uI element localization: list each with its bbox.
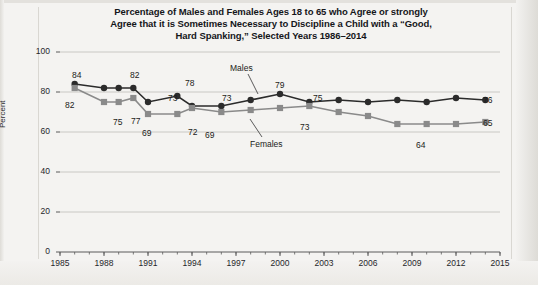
x-axis-tick-label: 2015 [483, 258, 517, 268]
marker-males [218, 103, 224, 109]
y-axis-tick-label: 0 [26, 246, 50, 256]
x-axis-tick-label: 2003 [307, 258, 341, 268]
data-point-label: 82 [130, 70, 139, 80]
marker-females [306, 103, 312, 109]
marker-males [247, 97, 253, 103]
data-point-label: 72 [188, 127, 197, 137]
x-axis-tick-label: 2000 [263, 258, 297, 268]
series-label-females: Females [250, 139, 283, 149]
data-point-label: 64 [416, 140, 425, 150]
y-axis-tick-label: 20 [26, 206, 50, 216]
x-axis-tick-label: 1985 [43, 258, 77, 268]
x-axis-tick-label: 2009 [395, 258, 429, 268]
marker-males [277, 91, 283, 97]
data-point-label: 75 [113, 117, 122, 127]
y-axis-tick-label: 40 [26, 166, 50, 176]
marker-females [248, 107, 254, 113]
x-axis-tick-label: 1997 [219, 258, 253, 268]
marker-females [453, 121, 459, 127]
marker-males [335, 97, 341, 103]
data-point-label: 69 [205, 130, 214, 140]
data-point-label: 73 [222, 93, 231, 103]
y-axis-tick-label: 100 [26, 46, 50, 56]
marker-females [218, 109, 224, 115]
marker-females [174, 111, 180, 117]
marker-females [277, 105, 283, 111]
series-label-males: Males [230, 63, 253, 73]
data-point-label: 82 [65, 100, 74, 110]
marker-females [130, 95, 136, 101]
marker-females [72, 85, 78, 91]
marker-females [145, 111, 151, 117]
x-axis-tick-label: 1988 [87, 258, 121, 268]
marker-males [115, 85, 121, 91]
data-point-label: 76 [483, 95, 492, 105]
marker-females [394, 121, 400, 127]
marker-males [423, 99, 429, 105]
y-axis-label: Percent [0, 100, 7, 128]
marker-females [189, 105, 195, 111]
marker-males [453, 95, 459, 101]
data-point-label: 65 [483, 118, 492, 128]
marker-females [424, 121, 430, 127]
marker-males [130, 85, 136, 91]
y-axis-tick-label: 80 [26, 86, 50, 96]
leader-line-males [248, 74, 258, 94]
x-axis-tick-label: 1994 [175, 258, 209, 268]
data-point-label: 78 [185, 78, 194, 88]
marker-males [101, 85, 107, 91]
marker-females [336, 109, 342, 115]
data-point-label: 75 [313, 93, 322, 103]
leader-line-females [250, 119, 262, 137]
marker-males [145, 99, 151, 105]
data-point-label: 77 [131, 116, 140, 126]
data-point-label: 69 [142, 128, 151, 138]
marker-females [365, 113, 371, 119]
marker-females [116, 99, 122, 105]
data-point-label: 79 [275, 80, 284, 90]
data-point-label: 73 [168, 93, 177, 103]
data-point-label: 73 [300, 122, 309, 132]
marker-males [365, 99, 371, 105]
marker-males [394, 97, 400, 103]
x-axis-tick-label: 2012 [439, 258, 473, 268]
chart-figure: Percentage of Males and Females Ages 18 … [0, 0, 538, 285]
y-axis-tick-label: 60 [26, 126, 50, 136]
x-axis-tick-label: 2006 [351, 258, 385, 268]
x-axis-tick-label: 1991 [131, 258, 165, 268]
marker-females [101, 99, 107, 105]
data-point-label: 84 [72, 70, 81, 80]
